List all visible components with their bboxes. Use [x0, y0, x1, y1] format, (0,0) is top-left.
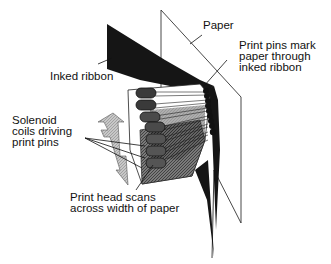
label-print-head-scans: Print head scans across width of paper [70, 192, 179, 214]
label-solenoid-coils: Solenoid coils driving print pins [12, 115, 72, 148]
label-paper: Paper [203, 20, 234, 31]
label-inked-ribbon: Inked ribbon [50, 71, 113, 82]
scan-direction-arrow-icon [98, 113, 128, 185]
label-print-pins-mark: Print pins mark paper through inked ribb… [239, 40, 316, 73]
